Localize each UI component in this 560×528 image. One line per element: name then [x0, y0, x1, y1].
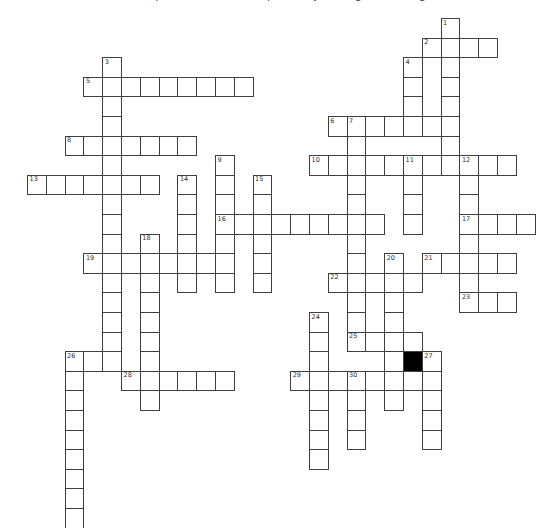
crossword-cell[interactable]: [121, 77, 141, 98]
crossword-cell[interactable]: [140, 351, 160, 372]
crossword-cell[interactable]: [384, 332, 404, 353]
crossword-cell[interactable]: [347, 253, 367, 274]
crossword-cell[interactable]: [459, 234, 479, 255]
crossword-cell[interactable]: [177, 136, 197, 157]
crossword-cell[interactable]: [140, 292, 160, 313]
crossword-cell[interactable]: [253, 234, 273, 255]
crossword-cell[interactable]: [65, 175, 85, 196]
crossword-cell[interactable]: [422, 430, 442, 451]
crossword-cell[interactable]: [422, 371, 442, 392]
crossword-cell[interactable]: [365, 371, 385, 392]
crossword-cell[interactable]: [234, 214, 254, 235]
crossword-cell[interactable]: [384, 390, 404, 411]
crossword-cell[interactable]: [478, 155, 498, 176]
crossword-cell[interactable]: [403, 371, 423, 392]
crossword-cell[interactable]: [441, 116, 461, 137]
crossword-cell[interactable]: [177, 194, 197, 215]
crossword-cell[interactable]: [384, 292, 404, 313]
crossword-cell[interactable]: [497, 292, 517, 313]
crossword-cell[interactable]: [347, 390, 367, 411]
crossword-cell[interactable]: [384, 273, 404, 294]
crossword-cell[interactable]: [309, 410, 329, 431]
crossword-cell[interactable]: [140, 273, 160, 294]
crossword-cell[interactable]: [215, 194, 235, 215]
crossword-cell[interactable]: [140, 136, 160, 157]
crossword-cell[interactable]: [234, 77, 254, 98]
crossword-cell[interactable]: [140, 77, 160, 98]
crossword-cell[interactable]: [347, 273, 367, 294]
crossword-cell[interactable]: [102, 77, 122, 98]
crossword-cell[interactable]: 8: [65, 136, 85, 157]
crossword-cell[interactable]: [215, 175, 235, 196]
crossword-cell[interactable]: [65, 371, 85, 392]
crossword-cell[interactable]: [478, 38, 498, 59]
crossword-cell[interactable]: 5: [83, 77, 103, 98]
crossword-cell[interactable]: [309, 430, 329, 451]
crossword-cell[interactable]: [328, 371, 348, 392]
crossword-cell[interactable]: [121, 175, 141, 196]
crossword-cell[interactable]: [102, 351, 122, 372]
crossword-cell[interactable]: [215, 273, 235, 294]
crossword-cell[interactable]: [215, 234, 235, 255]
crossword-cell[interactable]: [140, 390, 160, 411]
crossword-cell[interactable]: [328, 214, 348, 235]
crossword-cell[interactable]: [271, 214, 291, 235]
crossword-cell[interactable]: [215, 253, 235, 274]
crossword-cell[interactable]: [177, 371, 197, 392]
crossword-cell[interactable]: [83, 136, 103, 157]
crossword-cell[interactable]: [309, 390, 329, 411]
crossword-cell[interactable]: 2: [422, 38, 442, 59]
crossword-cell[interactable]: [102, 332, 122, 353]
crossword-cell[interactable]: [459, 38, 479, 59]
crossword-cell[interactable]: 28: [121, 371, 141, 392]
crossword-cell[interactable]: [102, 292, 122, 313]
crossword-cell[interactable]: [347, 136, 367, 157]
crossword-cell[interactable]: [65, 488, 85, 509]
crossword-cell[interactable]: 18: [140, 234, 160, 255]
crossword-cell[interactable]: 21: [422, 253, 442, 274]
crossword-cell[interactable]: [403, 332, 423, 353]
crossword-cell[interactable]: [253, 253, 273, 274]
crossword-cell[interactable]: 16: [215, 214, 235, 235]
crossword-cell[interactable]: 19: [83, 253, 103, 274]
crossword-cell[interactable]: [347, 430, 367, 451]
crossword-cell[interactable]: [65, 390, 85, 411]
crossword-cell[interactable]: [347, 194, 367, 215]
crossword-cell[interactable]: [102, 116, 122, 137]
crossword-cell[interactable]: [102, 194, 122, 215]
crossword-cell[interactable]: [459, 194, 479, 215]
crossword-cell[interactable]: [478, 292, 498, 313]
crossword-cell[interactable]: [459, 273, 479, 294]
crossword-cell[interactable]: [215, 371, 235, 392]
crossword-cell[interactable]: [309, 351, 329, 372]
crossword-cell[interactable]: [403, 96, 423, 117]
crossword-cell[interactable]: [422, 410, 442, 431]
crossword-cell[interactable]: 12: [459, 155, 479, 176]
crossword-cell[interactable]: [403, 77, 423, 98]
crossword-cell[interactable]: 26: [65, 351, 85, 372]
crossword-cell[interactable]: [102, 155, 122, 176]
crossword-cell[interactable]: 9: [215, 155, 235, 176]
crossword-cell[interactable]: [102, 175, 122, 196]
crossword-cell[interactable]: [497, 214, 517, 235]
crossword-cell[interactable]: 30: [347, 371, 367, 392]
crossword-cell[interactable]: [102, 273, 122, 294]
crossword-cell[interactable]: [309, 371, 329, 392]
crossword-cell[interactable]: [196, 77, 216, 98]
crossword-cell[interactable]: 20: [384, 253, 404, 274]
crossword-cell[interactable]: [384, 116, 404, 137]
crossword-cell[interactable]: [177, 214, 197, 235]
crossword-cell[interactable]: [159, 77, 179, 98]
crossword-cell[interactable]: [177, 234, 197, 255]
crossword-cell[interactable]: [83, 175, 103, 196]
crossword-cell[interactable]: [215, 77, 235, 98]
crossword-cell[interactable]: [422, 116, 442, 137]
crossword-cell[interactable]: [365, 273, 385, 294]
crossword-cell[interactable]: [46, 175, 66, 196]
crossword-cell[interactable]: [497, 253, 517, 274]
crossword-cell[interactable]: 1: [441, 18, 461, 39]
crossword-cell[interactable]: 22: [328, 273, 348, 294]
crossword-cell[interactable]: [365, 332, 385, 353]
crossword-cell[interactable]: [177, 273, 197, 294]
crossword-cell[interactable]: 4: [403, 57, 423, 78]
